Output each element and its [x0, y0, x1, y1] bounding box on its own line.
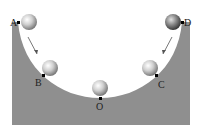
label-a: A	[10, 18, 17, 28]
ball-o	[92, 80, 108, 96]
label-c: C	[158, 80, 165, 90]
ball-a	[21, 14, 37, 30]
label-d: D	[184, 18, 191, 28]
label-o: O	[96, 102, 103, 112]
ball-b	[42, 60, 58, 76]
label-b: B	[35, 78, 42, 88]
ball-d	[165, 14, 181, 30]
ball-c	[142, 60, 158, 76]
